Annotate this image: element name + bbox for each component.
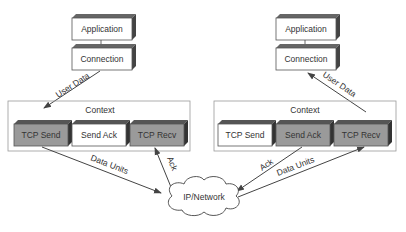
left-send-ack-box: Send Ack	[72, 120, 130, 146]
right-tcp-send-box: TCP Send	[218, 120, 276, 146]
right-ack-label: Ack	[258, 156, 276, 173]
right-send-ack-label: Send Ack	[285, 130, 322, 140]
left-ack-label: Ack	[165, 155, 180, 173]
right-send-ack-box: Send Ack	[276, 120, 334, 146]
left-connection-label: Connection	[80, 54, 123, 64]
diagram-canvas: Application Connection User Data Context…	[0, 0, 406, 232]
left-tcp-recv-box: TCP Recv	[130, 120, 188, 146]
left-context-label: Context	[85, 105, 115, 115]
right-context-label: Context	[290, 105, 320, 115]
left-tcp-recv-label: TCP Recv	[138, 130, 177, 140]
right-application-label: Application	[285, 24, 327, 34]
left-application-label: Application	[81, 24, 123, 34]
right-connection-box: Connection	[276, 44, 340, 70]
left-application-box: Application	[72, 14, 136, 40]
right-tcp-recv-box: TCP Recv	[334, 120, 392, 146]
network-label: IP/Network	[183, 192, 225, 202]
left-connection-box: Connection	[72, 44, 136, 70]
left-user-data-label: User Data	[54, 70, 92, 99]
left-tcp-send-box: TCP Send	[14, 120, 72, 146]
left-tcp-send-label: TCP Send	[21, 130, 60, 140]
right-tcp-send-label: TCP Send	[225, 130, 264, 140]
right-connection-label: Connection	[284, 54, 327, 64]
network-cloud: IP/Network	[168, 177, 239, 216]
right-tcp-recv-label: TCP Recv	[342, 130, 381, 140]
left-send-ack-label: Send Ack	[81, 130, 118, 140]
left-data-units-label: Data Units	[89, 153, 130, 177]
right-application-box: Application	[276, 14, 340, 40]
